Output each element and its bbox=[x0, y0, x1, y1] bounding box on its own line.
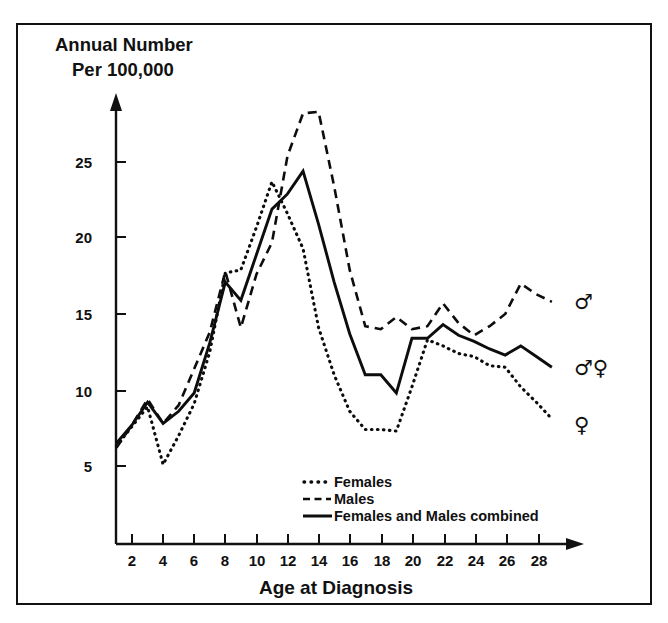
legend-item-females: Females bbox=[304, 474, 392, 490]
x-axis: 2 4 6 8 10 12 14 16 18 20 22 24 26 28 Ag… bbox=[116, 534, 584, 598]
figure-frame: Annual Number Per 100,000 25 20 15 10 5 bbox=[16, 23, 652, 605]
x-tick-label-2: 2 bbox=[128, 552, 136, 569]
female-symbol: ♀ bbox=[574, 413, 589, 437]
x-axis-tick-labels: 2 4 6 8 10 12 14 16 18 20 22 24 26 28 bbox=[128, 552, 548, 569]
x-tick-label-12: 12 bbox=[280, 552, 297, 569]
x-tick-label-8: 8 bbox=[221, 552, 229, 569]
x-tick-label-22: 22 bbox=[437, 552, 454, 569]
y-tick-label-25: 25 bbox=[75, 154, 92, 171]
male-female-symbol: ♂♀ bbox=[574, 356, 608, 380]
y-tick-label-20: 20 bbox=[75, 229, 92, 246]
legend-label-males: Males bbox=[334, 491, 374, 507]
legend-item-combined: Females and Males combined bbox=[303, 508, 539, 524]
x-tick-label-14: 14 bbox=[311, 552, 328, 569]
x-tick-label-6: 6 bbox=[190, 552, 198, 569]
x-tick-label-26: 26 bbox=[499, 552, 516, 569]
header-line-1: Annual Number bbox=[55, 34, 193, 55]
x-axis-title: Age at Diagnosis bbox=[259, 577, 413, 598]
series-line-females bbox=[116, 182, 551, 465]
series-group bbox=[116, 112, 551, 465]
x-tick-label-4: 4 bbox=[159, 552, 168, 569]
y-axis: 25 20 15 10 5 bbox=[75, 93, 126, 544]
series-line-combined bbox=[116, 171, 551, 443]
x-axis-ticks bbox=[132, 534, 539, 544]
chart-canvas: Annual Number Per 100,000 25 20 15 10 5 bbox=[18, 25, 650, 603]
x-tick-label-20: 20 bbox=[405, 552, 422, 569]
x-tick-label-28: 28 bbox=[531, 552, 548, 569]
male-symbol: ♂ bbox=[574, 290, 593, 314]
legend-label-combined: Females and Males combined bbox=[334, 508, 539, 524]
x-tick-label-24: 24 bbox=[468, 552, 485, 569]
y-tick-label-5: 5 bbox=[84, 458, 92, 475]
y-axis-tick-labels: 25 20 15 10 5 bbox=[75, 154, 92, 475]
header-line-2: Per 100,000 bbox=[72, 59, 174, 80]
x-tick-label-16: 16 bbox=[342, 552, 359, 569]
y-tick-label-15: 15 bbox=[75, 306, 92, 323]
y-tick-label-10: 10 bbox=[75, 383, 92, 400]
legend-label-females: Females bbox=[334, 474, 392, 490]
x-tick-label-10: 10 bbox=[249, 552, 266, 569]
legend-item-males: Males bbox=[303, 491, 374, 507]
legend: Females Males Females and Males combined bbox=[303, 474, 539, 524]
end-symbol-group: ♂ ♂♀ ♀ bbox=[574, 290, 608, 437]
x-tick-label-18: 18 bbox=[374, 552, 391, 569]
y-axis-ticks bbox=[116, 162, 126, 466]
